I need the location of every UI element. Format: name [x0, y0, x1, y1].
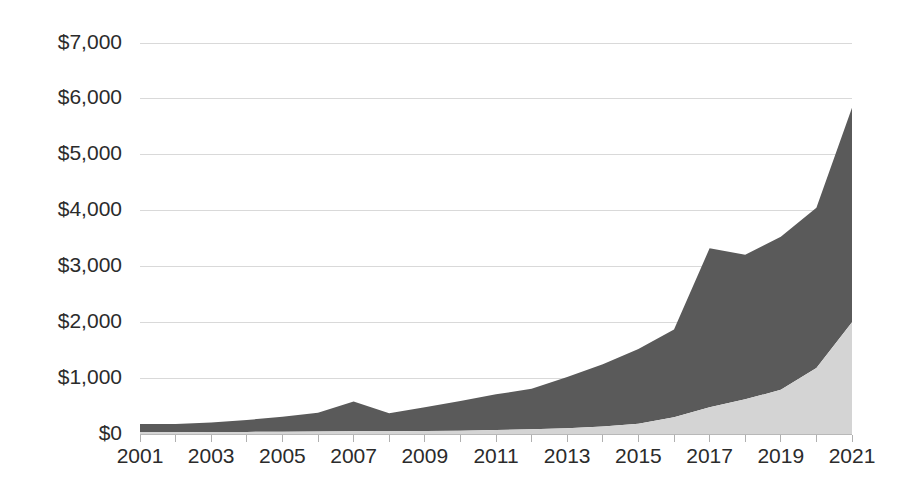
xtick-label-2003: 2003	[188, 444, 235, 467]
ytick-label-0: $0	[99, 421, 122, 444]
area-chart: $0$1,000$2,000$3,000$4,000$5,000$6,000$7…	[0, 0, 904, 479]
ytick-label-1000: $1,000	[58, 365, 122, 388]
ytick-label-2000: $2,000	[58, 309, 122, 332]
chart-canvas: $0$1,000$2,000$3,000$4,000$5,000$6,000$7…	[0, 0, 904, 479]
xtick-label-2019: 2019	[757, 444, 804, 467]
xtick-label-2007: 2007	[330, 444, 377, 467]
ytick-label-3000: $3,000	[58, 253, 122, 276]
xtick-label-2015: 2015	[615, 444, 662, 467]
area-series-group	[140, 108, 852, 434]
x-axis-labels: 2001200320052007200920112013201520172019…	[117, 444, 876, 467]
xtick-label-2001: 2001	[117, 444, 164, 467]
xtick-label-2013: 2013	[544, 444, 591, 467]
ytick-label-6000: $6,000	[58, 85, 122, 108]
ytick-label-7000: $7,000	[58, 30, 122, 53]
xtick-label-2005: 2005	[259, 444, 306, 467]
tickmarks	[140, 435, 852, 442]
xtick-label-2021: 2021	[829, 444, 876, 467]
xtick-label-2009: 2009	[401, 444, 448, 467]
y-axis-labels: $0$1,000$2,000$3,000$4,000$5,000$6,000$7…	[58, 30, 122, 444]
xtick-label-2011: 2011	[473, 444, 518, 467]
xtick-label-2017: 2017	[686, 444, 733, 467]
ytick-label-5000: $5,000	[58, 141, 122, 164]
ytick-label-4000: $4,000	[58, 197, 122, 220]
area-upper-series	[140, 108, 852, 433]
